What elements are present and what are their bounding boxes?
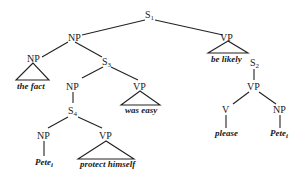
node-np-s3: NP bbox=[66, 81, 79, 92]
edge-s3-np bbox=[82, 67, 103, 78]
triangle-the-fact bbox=[16, 63, 49, 80]
terminal-be-likely: be likely bbox=[211, 54, 243, 64]
tree-nodes: S1 NP VP NP S3 NP VP S4 NP VP S2 VP V NP bbox=[27, 9, 286, 141]
terminal-pete-1: Petei bbox=[35, 157, 53, 169]
syntax-tree-diagram: S1 NP VP NP S3 NP VP S4 NP VP S2 VP V NP… bbox=[0, 0, 305, 180]
edge-s1-np bbox=[82, 20, 145, 35]
tree-terminals: the fact be likely was easy Petei protec… bbox=[17, 54, 288, 169]
edge-s4-np bbox=[48, 117, 68, 128]
node-np-s4: NP bbox=[37, 130, 50, 141]
node-s4: S4 bbox=[68, 105, 78, 118]
node-vp-s4: VP bbox=[99, 130, 112, 141]
tree-svg: S1 NP VP NP S3 NP VP S4 NP VP S2 VP V NP… bbox=[0, 0, 305, 180]
node-np-s2: NP bbox=[273, 104, 286, 115]
terminal-protect-himself: protect himself bbox=[79, 159, 136, 169]
node-vp-s2: VP bbox=[247, 81, 260, 92]
edge-vp-np bbox=[259, 92, 276, 104]
edge-np-np bbox=[42, 42, 68, 57]
edge-s4-vp bbox=[78, 117, 102, 128]
edge-vp-v bbox=[233, 92, 249, 104]
triangle-protect-himself bbox=[78, 141, 134, 159]
terminal-pete-2: Petei bbox=[270, 128, 288, 140]
node-np-top: NP bbox=[68, 32, 81, 43]
edge-np-s3 bbox=[75, 42, 102, 57]
node-vp-s3: VP bbox=[133, 81, 146, 92]
terminal-the-fact: the fact bbox=[17, 81, 45, 91]
terminal-please: please bbox=[214, 128, 238, 138]
node-s2: S2 bbox=[250, 57, 260, 70]
node-vp-top: VP bbox=[220, 32, 233, 43]
triangle-was-easy bbox=[121, 91, 160, 105]
tree-edges bbox=[16, 20, 280, 159]
node-s3: S3 bbox=[102, 56, 112, 69]
node-np-fact: NP bbox=[27, 53, 40, 64]
node-s1: S1 bbox=[145, 9, 155, 22]
edge-s3-vp bbox=[111, 67, 138, 80]
edge-s1-vp bbox=[155, 20, 223, 35]
terminal-was-easy: was easy bbox=[125, 105, 158, 115]
node-v-s2: V bbox=[222, 104, 230, 115]
